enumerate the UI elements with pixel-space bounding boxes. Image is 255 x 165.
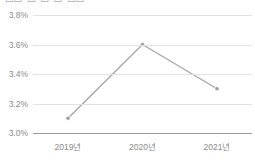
series-line <box>68 45 217 119</box>
x-axis-tick-label: 2020년 <box>129 142 156 152</box>
y-axis-tick-label: 3.2% <box>9 99 28 108</box>
y-axis-tick-label: 3.0% <box>9 129 28 138</box>
gridline <box>33 74 252 75</box>
line-chart: □□ □ □ □ □□ 3.0%3.2%3.4%3.6%3.8%2019년202… <box>0 0 255 165</box>
data-point <box>215 87 219 91</box>
x-axis-tick-label: 2021년 <box>204 142 231 152</box>
plot-area: 3.0%3.2%3.4%3.6%3.8%2019년2020년2021년 <box>33 15 252 133</box>
gridline <box>33 104 252 105</box>
x-axis-tick-label: 2019년 <box>55 142 82 152</box>
data-point <box>66 116 70 120</box>
axis-baseline <box>33 133 252 134</box>
y-axis-tick-label: 3.4% <box>9 70 28 79</box>
series-markers <box>66 42 219 120</box>
y-axis-tick-label: 3.6% <box>9 40 28 49</box>
gridline <box>33 15 252 16</box>
gridline <box>33 45 252 46</box>
chart-title: □□ □ □ □ □□ <box>6 0 206 5</box>
y-axis-tick-label: 3.8% <box>9 11 28 20</box>
